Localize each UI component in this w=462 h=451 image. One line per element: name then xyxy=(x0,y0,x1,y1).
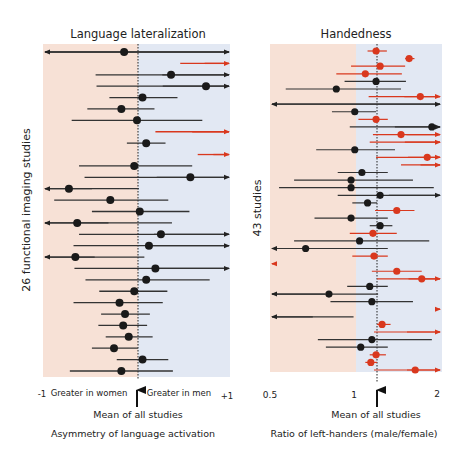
point-estimate xyxy=(372,47,379,54)
mean-label: Mean of all studies xyxy=(331,409,420,420)
x-axis-label: Asymmetry of language activation xyxy=(51,428,215,439)
point-estimate xyxy=(157,230,165,238)
point-estimate xyxy=(356,237,363,244)
point-estimate xyxy=(376,222,383,229)
point-estimate xyxy=(406,55,413,62)
region-label-women: Greater in women xyxy=(51,388,128,398)
point-estimate xyxy=(167,71,175,79)
point-estimate xyxy=(116,299,124,307)
point-estimate xyxy=(151,264,159,272)
point-estimate xyxy=(125,333,133,341)
point-estimate xyxy=(412,366,419,373)
point-estimate xyxy=(71,253,79,261)
point-estimate xyxy=(142,139,150,147)
x-axis-label: Ratio of left-handers (male/female) xyxy=(271,428,438,439)
point-estimate xyxy=(417,93,424,100)
region-label-men: Greater in men xyxy=(147,388,211,398)
point-estimate xyxy=(378,321,385,328)
tick-label-mid: 1 xyxy=(351,390,357,400)
point-estimate xyxy=(120,48,128,56)
point-estimate xyxy=(121,310,129,318)
point-estimate xyxy=(364,199,371,206)
point-estimate xyxy=(142,276,150,284)
chart-title: Language lateralization xyxy=(70,27,206,41)
point-estimate xyxy=(302,245,309,252)
point-estimate xyxy=(347,184,354,191)
point-estimate xyxy=(351,108,358,115)
point-estimate xyxy=(376,192,383,199)
point-estimate xyxy=(368,298,375,305)
y-axis-label: 43 studies xyxy=(251,179,264,236)
point-estimate xyxy=(372,78,379,85)
point-estimate xyxy=(357,344,364,351)
panel-handedness: Handedness 43 studies 0.5 1 2 Mean of al… xyxy=(251,27,442,439)
point-estimate xyxy=(393,268,400,275)
point-estimate xyxy=(73,219,81,227)
point-estimate xyxy=(117,367,125,375)
point-estimate xyxy=(351,146,358,153)
figure: Language lateralization 26 functional im… xyxy=(0,0,462,451)
panel-language: Language lateralization 26 functional im… xyxy=(20,27,233,439)
point-estimate xyxy=(65,185,73,193)
mean-label: Mean of all studies xyxy=(93,409,182,420)
point-estimate xyxy=(424,154,431,161)
point-estimate xyxy=(202,82,210,90)
tick-label-max: 2 xyxy=(434,389,440,399)
point-estimate xyxy=(362,70,369,77)
tick-label-max: +1 xyxy=(221,391,234,401)
tick-label-min: 0.5 xyxy=(263,390,277,400)
point-estimate xyxy=(368,336,375,343)
point-estimate xyxy=(119,321,127,329)
point-estimate xyxy=(418,275,425,282)
point-estimate xyxy=(370,252,377,259)
point-estimate xyxy=(367,359,374,366)
point-estimate xyxy=(133,116,141,124)
point-estimate xyxy=(136,208,144,216)
point-estimate xyxy=(325,290,332,297)
tick-label-min: -1 xyxy=(38,389,46,399)
y-axis-label: 26 functional imaging studies xyxy=(20,128,33,292)
point-estimate xyxy=(428,123,435,130)
point-estimate xyxy=(333,85,340,92)
point-estimate xyxy=(347,177,354,184)
point-estimate xyxy=(130,287,138,295)
point-estimate xyxy=(397,131,404,138)
point-estimate xyxy=(366,283,373,290)
point-estimate xyxy=(186,173,194,181)
background-men-side xyxy=(138,44,230,377)
point-estimate xyxy=(110,344,118,352)
point-estimate xyxy=(130,162,138,170)
point-estimate xyxy=(117,105,125,113)
point-estimate xyxy=(376,63,383,70)
point-estimate xyxy=(393,207,400,214)
point-estimate xyxy=(369,230,376,237)
point-estimate xyxy=(372,116,379,123)
point-estimate xyxy=(372,351,379,358)
chart-title: Handedness xyxy=(320,27,391,41)
point-estimate xyxy=(347,214,354,221)
point-estimate xyxy=(145,242,153,250)
point-estimate xyxy=(106,196,114,204)
point-estimate xyxy=(358,169,365,176)
point-estimate xyxy=(139,356,147,364)
background-below-1 xyxy=(270,44,356,372)
point-estimate xyxy=(139,94,147,102)
